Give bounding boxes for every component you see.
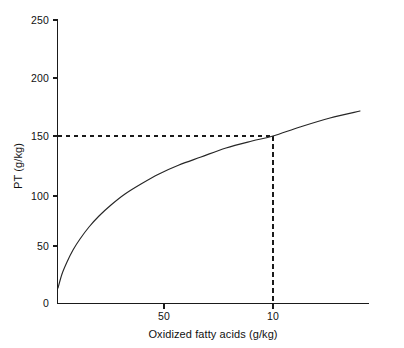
x-tick-label-10: 10 [267,310,279,322]
y-tick-label-200: 200 [31,72,49,84]
x-axis-title: Oxidized fatty acids (g/kg) [148,328,277,340]
y-tick-label-0: 0 [43,297,49,309]
x-tick-label-50: 50 [158,310,170,322]
y-tick-label-150: 150 [31,130,49,142]
y-tick-label-50: 50 [37,240,49,252]
y-axis-title: PT (g/kg) [12,143,24,189]
chart-figure: 250 200 150 100 50 0 50 10 Oxidized fatt… [0,0,404,348]
y-tick-label-250: 250 [31,14,49,26]
y-tick-label-100: 100 [31,190,49,202]
line-chart-plot: 250 200 150 100 50 0 50 10 Oxidized fatt… [0,0,404,348]
chart-background [0,0,404,348]
